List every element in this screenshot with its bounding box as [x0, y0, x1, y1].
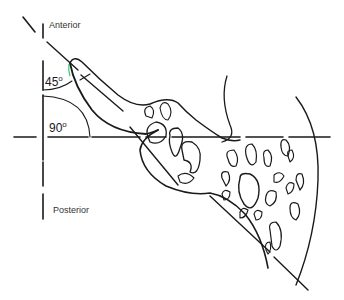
posterior-label: Posterior	[53, 205, 89, 215]
anterior-label: Anterior	[49, 20, 81, 30]
angle-label-90: 90o	[49, 120, 67, 135]
bone-outline	[70, 59, 318, 285]
anatomical-diagram: 45o 90o Anterior Posterior	[0, 0, 344, 300]
air-cells	[145, 103, 304, 254]
